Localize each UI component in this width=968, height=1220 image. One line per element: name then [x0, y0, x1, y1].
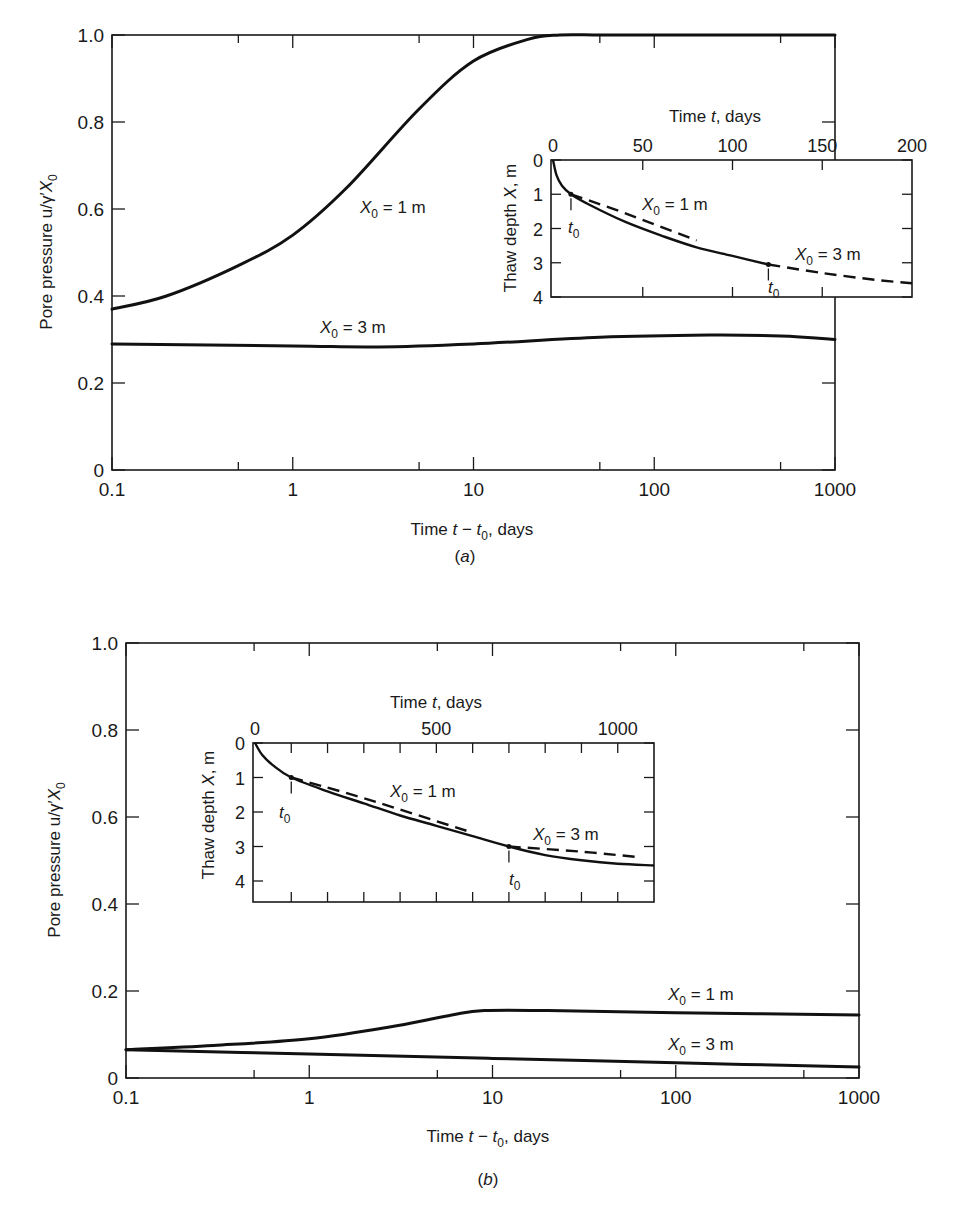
x-tick-label: 100: [660, 1087, 692, 1108]
panel-b-curves: [126, 1010, 859, 1067]
t0-marker: [766, 262, 771, 267]
panel-b-inset: 0123405001000 Time t, days Thaw depth X,…: [199, 693, 654, 902]
inset-y-tick-label: 4: [235, 872, 245, 892]
panel-b-x-axis-label: Time t − t0, days: [427, 1127, 550, 1150]
panel-a-label: (a): [455, 547, 476, 566]
y-tick-label: 1.0: [92, 633, 118, 654]
panel-b-chart: 00.20.40.60.81.0 0.11101001000 Pore pres…: [45, 633, 880, 1189]
y-tick-label: 0.8: [92, 720, 118, 741]
series-x0-1m-line: [126, 1010, 859, 1050]
series-x0-3m-line: [112, 335, 835, 347]
inset-y-tick-label: 1: [235, 769, 245, 789]
panel-a-inset-x-label: Time t, days: [669, 107, 761, 126]
inset-x-tick-label: 50: [633, 136, 653, 156]
panel-b-y-tick-labels: 00.20.40.60.81.0: [92, 633, 119, 1089]
y-tick-label: 0.8: [78, 112, 104, 133]
t0-marker: [289, 775, 294, 780]
y-tick-label: 0: [93, 460, 104, 481]
inset-x-tick-label: 0: [250, 719, 260, 739]
y-tick-label: 0.6: [92, 807, 118, 828]
panel-b-curve-label-1m: X0 = 1 m: [667, 985, 734, 1008]
x-tick-label: 10: [482, 1087, 503, 1108]
t0-marker: [568, 192, 573, 197]
panel-a-curve-label-1m: X0 = 1 m: [359, 198, 426, 221]
panel-a-curve-label-3m: X0 = 3 m: [319, 318, 386, 341]
panel-b-inset-x-label: Time t, days: [390, 693, 482, 712]
panel-b-y-axis-label: Pore pressure u/γ′X0: [45, 782, 68, 938]
x-tick-label: 10: [463, 479, 484, 500]
figure: 00.20.40.60.81.0 0.11101001000 Pore pres…: [0, 0, 968, 1220]
panel-b-x-tick-labels: 0.11101001000: [113, 1087, 880, 1108]
x-tick-label: 0.1: [113, 1087, 139, 1108]
x-tick-label: 100: [638, 479, 670, 500]
inset-x-tick-label: 100: [717, 136, 747, 156]
inset-x-tick-label: 200: [897, 136, 927, 156]
series-x0-3m-line: [126, 1050, 859, 1067]
panel-a-inset: 01234050100150200 Time t, days Thaw dept…: [501, 107, 927, 308]
inset-x-tick-label: 500: [421, 719, 451, 739]
x-tick-label: 1000: [838, 1087, 880, 1108]
inset-y-tick-label: 4: [533, 288, 543, 308]
panel-b-curve-label-3m: X0 = 3 m: [667, 1035, 734, 1058]
panel-a-y-axis-label: Pore pressure u/γ′X0: [37, 174, 60, 330]
x-tick-label: 1: [304, 1087, 315, 1108]
x-tick-label: 1: [287, 479, 298, 500]
inset-y-tick-label: 1: [533, 185, 543, 205]
panel-a-x-axis-label: Time t − t0, days: [411, 520, 534, 543]
inset-x-tick-label: 150: [807, 136, 837, 156]
inset-y-tick-label: 2: [235, 803, 245, 823]
inset-y-tick-label: 0: [533, 151, 543, 171]
y-tick-label: 0: [107, 1068, 118, 1089]
inset-x-tick-label: 0: [548, 136, 558, 156]
panel-a-inset-y-label: Thaw depth X, m: [501, 164, 520, 293]
x-tick-label: 0.1: [99, 479, 125, 500]
y-tick-label: 0.4: [78, 286, 105, 307]
panel-b-inset-y-label: Thaw depth X, m: [199, 751, 218, 880]
inset-y-tick-label: 0: [235, 734, 245, 754]
panel-b-label: (b): [478, 1170, 499, 1189]
y-tick-label: 0.4: [92, 894, 119, 915]
panel-a-y-tick-labels: 00.20.40.60.81.0: [78, 25, 105, 481]
y-tick-label: 0.2: [92, 981, 118, 1002]
panel-a-x-tick-labels: 0.11101001000: [99, 479, 856, 500]
inset-y-tick-label: 2: [533, 220, 543, 240]
panel-b-inset-frame: [253, 743, 654, 902]
panel-a-inset-frame: [551, 160, 912, 297]
inset-y-tick-label: 3: [533, 254, 543, 274]
inset-x-tick-label: 1000: [598, 719, 638, 739]
y-tick-label: 0.2: [78, 373, 104, 394]
y-tick-label: 0.6: [78, 199, 104, 220]
inset-y-tick-label: 3: [235, 838, 245, 858]
x-tick-label: 1000: [814, 479, 856, 500]
y-tick-label: 1.0: [78, 25, 104, 46]
t0-marker: [506, 844, 511, 849]
panel-a-chart: 00.20.40.60.81.0 0.11101001000 Pore pres…: [37, 25, 927, 566]
